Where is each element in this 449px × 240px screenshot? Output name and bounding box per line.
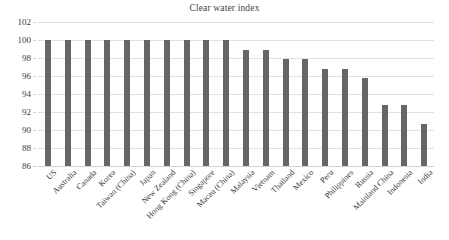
y-tick-label-96: 96 [22, 71, 31, 81]
bar[interactable] [104, 40, 110, 166]
bar[interactable] [421, 124, 427, 166]
chart-container: Clear water index 86889092949698100102 U… [0, 0, 449, 240]
y-tick-mark-96 [33, 76, 36, 77]
y-tick-mark-90 [33, 130, 36, 131]
bar[interactable] [164, 40, 170, 166]
y-tick-label-94: 94 [22, 89, 31, 99]
bar[interactable] [124, 40, 130, 166]
plot-area [38, 22, 434, 166]
bar[interactable] [45, 40, 51, 166]
bar[interactable] [203, 40, 209, 166]
y-tick-label-98: 98 [22, 53, 31, 63]
y-tick-label-88: 88 [22, 143, 31, 153]
y-tick-mark-94 [33, 94, 36, 95]
bar[interactable] [223, 40, 229, 166]
bar[interactable] [85, 40, 91, 166]
bar[interactable] [342, 69, 348, 166]
y-tick-mark-86 [33, 166, 36, 167]
bar[interactable] [401, 105, 407, 166]
bar[interactable] [362, 78, 368, 166]
y-tick-mark-100 [33, 40, 36, 41]
bar[interactable] [144, 40, 150, 166]
bar[interactable] [243, 50, 249, 166]
bar[interactable] [283, 59, 289, 166]
bar[interactable] [65, 40, 71, 166]
y-tick-label-102: 102 [18, 17, 32, 27]
bar[interactable] [302, 59, 308, 166]
bar[interactable] [382, 105, 388, 166]
bar[interactable] [184, 40, 190, 166]
y-tick-label-86: 86 [22, 161, 31, 171]
y-tick-mark-98 [33, 58, 36, 59]
y-tick-label-100: 100 [18, 35, 32, 45]
y-tick-label-90: 90 [22, 125, 31, 135]
bars-layer [38, 22, 434, 166]
gridline-86 [38, 166, 434, 167]
bar[interactable] [263, 50, 269, 166]
y-tick-mark-102 [33, 22, 36, 23]
bar[interactable] [322, 69, 328, 166]
y-tick-mark-88 [33, 148, 36, 149]
y-axis: 86889092949698100102 [0, 22, 36, 166]
y-tick-label-92: 92 [22, 107, 31, 117]
chart-title: Clear water index [0, 3, 449, 13]
x-axis-labels: USAustraliaCanadaKoreaTaiwan (China)Japa… [38, 168, 434, 240]
y-tick-mark-92 [33, 112, 36, 113]
